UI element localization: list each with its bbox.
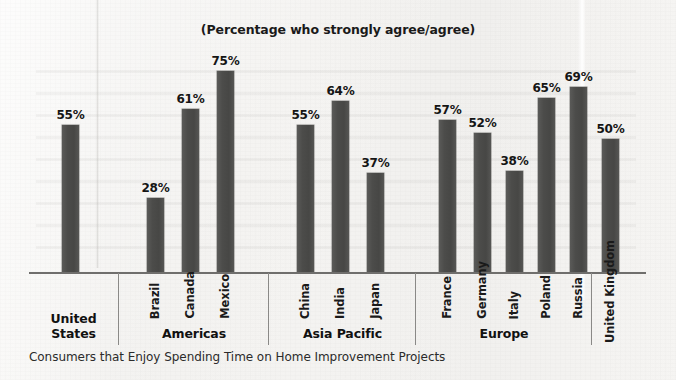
bar[interactable] bbox=[147, 198, 164, 273]
country-label: Germany bbox=[477, 261, 489, 319]
country-label: Russia bbox=[573, 277, 585, 319]
country-label: Poland bbox=[541, 275, 553, 319]
bar[interactable] bbox=[182, 109, 199, 273]
plot-area: 55%28%61%75%55%64%37%57%52%38%65%69%50% bbox=[0, 0, 676, 273]
bar[interactable] bbox=[506, 171, 523, 273]
country-label: India bbox=[335, 287, 347, 319]
group-cell: United States bbox=[29, 273, 119, 345]
bar-value-label: 61% bbox=[176, 92, 204, 106]
bar-value-label: 52% bbox=[468, 116, 496, 130]
category-label-table: United StatesAmericasBrazilCanadaMexicoA… bbox=[29, 273, 646, 345]
bar-value-label: 57% bbox=[433, 103, 461, 117]
bar[interactable] bbox=[474, 133, 491, 273]
group-cell bbox=[591, 273, 647, 345]
bar-value-label: 64% bbox=[326, 84, 354, 98]
bar[interactable] bbox=[62, 125, 79, 273]
country-label: Canada bbox=[185, 271, 197, 319]
bar-value-label: 69% bbox=[564, 70, 592, 84]
region-label: United States bbox=[29, 311, 118, 341]
bar-value-label: 55% bbox=[291, 108, 319, 122]
country-label: Italy bbox=[509, 291, 521, 319]
country-label: Mexico bbox=[220, 274, 232, 319]
bar-value-label: 65% bbox=[532, 81, 560, 95]
chart-caption: Consumers that Enjoy Spending Time on Ho… bbox=[29, 350, 445, 364]
bar-value-label: 37% bbox=[361, 156, 389, 170]
bar[interactable] bbox=[367, 173, 384, 273]
country-label: China bbox=[300, 283, 312, 319]
bar[interactable] bbox=[439, 120, 456, 273]
region-label: Europe bbox=[416, 326, 592, 341]
bar-value-label: 75% bbox=[211, 54, 239, 68]
bar-value-label: 38% bbox=[500, 154, 528, 168]
bar[interactable] bbox=[217, 71, 234, 273]
region-label: Asia Pacific bbox=[269, 326, 416, 341]
bar[interactable] bbox=[332, 101, 349, 273]
bar-value-label: 28% bbox=[141, 181, 169, 195]
bar[interactable] bbox=[538, 98, 555, 273]
bar-value-label: 50% bbox=[596, 122, 624, 136]
country-label: Brazil bbox=[150, 283, 162, 319]
country-label: Japan bbox=[370, 283, 382, 319]
bar[interactable] bbox=[570, 87, 587, 273]
country-label: France bbox=[442, 276, 454, 319]
bar-value-label: 55% bbox=[56, 108, 84, 122]
chart-page: (Percentage who strongly agree/agree) 55… bbox=[0, 0, 676, 380]
country-label: United Kingdom bbox=[605, 240, 617, 343]
region-label: Americas bbox=[119, 326, 269, 341]
bar[interactable] bbox=[297, 125, 314, 273]
